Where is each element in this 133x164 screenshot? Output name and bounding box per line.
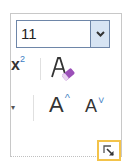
separator xyxy=(33,95,34,121)
clear-formatting-icon xyxy=(50,55,76,81)
font-size-value[interactable]: 11 xyxy=(17,21,90,47)
dialog-launcher-icon xyxy=(103,145,115,157)
superscript-button[interactable]: x2 xyxy=(11,56,25,74)
font-dialog-launcher-button[interactable] xyxy=(97,140,121,161)
clear-formatting-button[interactable] xyxy=(50,55,76,85)
font-size-combobox[interactable]: 11 xyxy=(16,20,110,48)
shrink-font-button[interactable]: A˅ xyxy=(85,96,104,117)
font-size-dropdown-button[interactable] xyxy=(90,21,109,47)
caret-down-icon: ˅ xyxy=(98,94,104,106)
chevron-down-icon[interactable]: ▾ xyxy=(11,103,15,112)
shrink-font-glyph: A xyxy=(85,96,97,116)
separator xyxy=(40,58,41,80)
caret-up-icon: ^ xyxy=(65,92,70,104)
grow-font-button[interactable]: A^ xyxy=(49,92,70,118)
grow-font-glyph: A xyxy=(49,92,64,117)
superscript-exponent: 2 xyxy=(20,54,25,64)
superscript-base: x xyxy=(11,56,20,73)
chevron-down-icon xyxy=(96,31,105,37)
